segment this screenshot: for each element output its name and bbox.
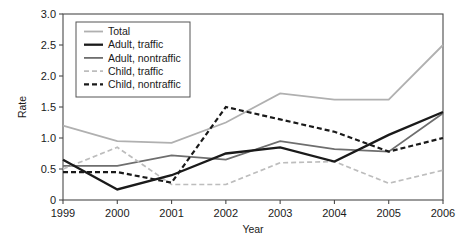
x-tick-label: 2003 — [268, 207, 292, 219]
x-tick-label: 2005 — [376, 207, 400, 219]
y-axis-title: Rate — [16, 96, 28, 118]
y-tick-label: 1.0 — [41, 132, 56, 144]
line-chart: 00.51.01.52.02.53.0Rate19992000200120022… — [0, 0, 468, 240]
y-tick-label: 2.0 — [41, 70, 56, 82]
x-tick-label: 2001 — [159, 207, 183, 219]
legend-label-1: Adult, traffic — [108, 38, 163, 50]
x-axis-title: Year — [242, 223, 264, 235]
y-tick-label: 0.5 — [41, 163, 56, 175]
y-tick-label: 0 — [50, 194, 56, 206]
y-tick-label: 1.5 — [41, 101, 56, 113]
x-tick-label: 2004 — [322, 207, 346, 219]
chart-canvas: 00.51.01.52.02.53.0Rate19992000200120022… — [0, 0, 468, 240]
x-tick-label: 1999 — [51, 207, 75, 219]
legend-label-3: Child, traffic — [108, 65, 163, 77]
legend-label-2: Adult, nontraffic — [108, 52, 181, 64]
x-tick-label: 2000 — [105, 207, 129, 219]
y-tick-label: 2.5 — [41, 39, 56, 51]
y-tick-label: 3.0 — [41, 8, 56, 20]
legend-label-0: Total — [108, 25, 130, 37]
legend-label-4: Child, nontraffic — [108, 78, 181, 90]
x-tick-label: 2002 — [214, 207, 238, 219]
series-line-adult-nontraffic — [63, 113, 443, 166]
series-line-child-nontraffic — [63, 107, 443, 183]
x-tick-label: 2006 — [431, 207, 455, 219]
